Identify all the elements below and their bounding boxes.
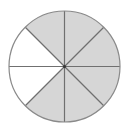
center-point [63,65,66,68]
fraction-circle-diagram [0,0,131,130]
